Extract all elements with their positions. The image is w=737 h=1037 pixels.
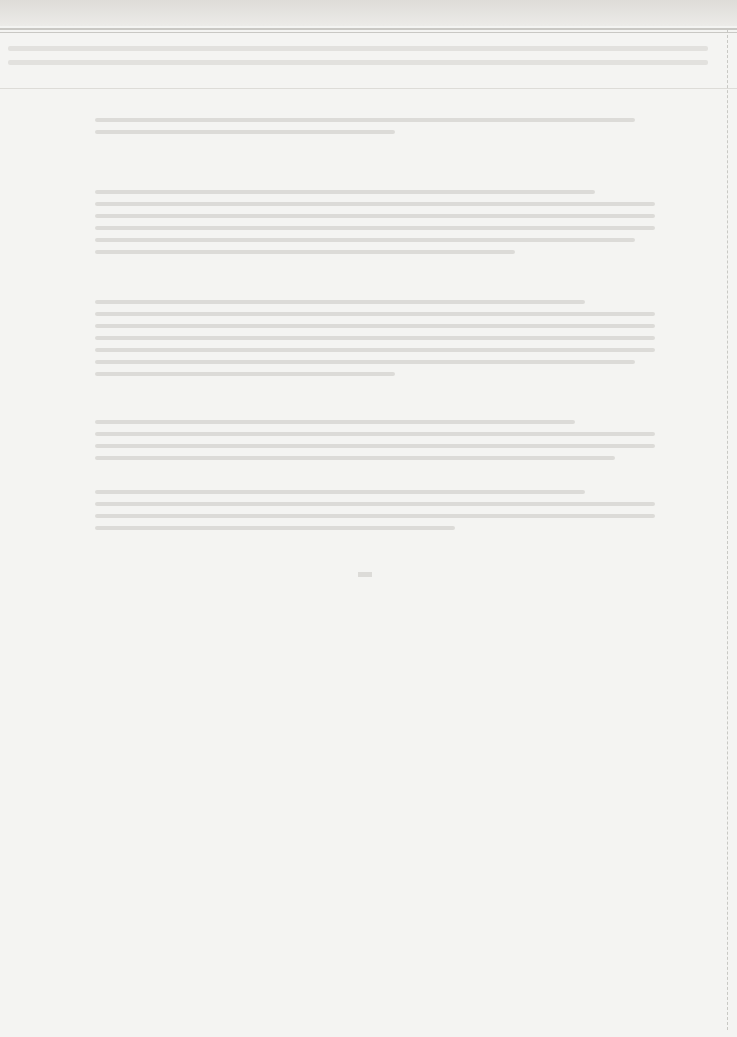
text-line	[95, 202, 655, 206]
text-line	[95, 300, 585, 304]
paragraph	[95, 190, 655, 262]
text-line	[95, 324, 655, 328]
text-line	[95, 250, 515, 254]
text-line	[95, 190, 595, 194]
text-line	[95, 420, 575, 424]
text-line	[95, 502, 655, 506]
text-line	[95, 238, 635, 242]
text-line	[95, 336, 655, 340]
text-line	[95, 432, 655, 436]
text-line	[95, 226, 655, 230]
margin-dashed-line	[727, 30, 728, 1030]
text-line	[95, 526, 455, 530]
text-line	[95, 444, 655, 448]
paragraph	[95, 490, 655, 538]
header-divider	[0, 88, 737, 89]
text-line	[95, 118, 635, 122]
header-rule-top	[0, 28, 737, 30]
text-line	[95, 514, 655, 518]
scan-top-band	[0, 0, 737, 26]
text-line	[95, 348, 655, 352]
text-line	[95, 490, 585, 494]
paragraph	[95, 420, 655, 468]
text-line	[95, 372, 395, 376]
paragraph	[95, 118, 635, 142]
paragraph	[95, 300, 655, 384]
text-line	[95, 130, 395, 134]
text-line	[95, 312, 655, 316]
text-line	[95, 360, 635, 364]
text-line	[95, 214, 655, 218]
header-rule-bottom	[0, 32, 737, 33]
page-number	[358, 572, 372, 577]
header-table-row	[8, 40, 718, 84]
text-line	[95, 456, 615, 460]
